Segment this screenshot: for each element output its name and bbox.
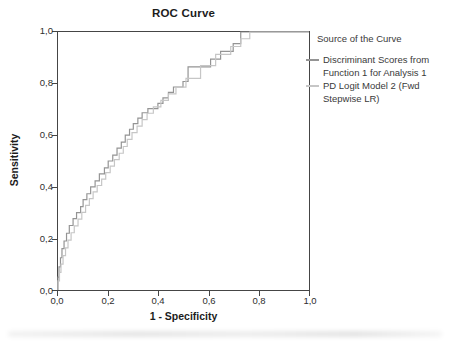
x-tick-label: 0,0	[42, 295, 72, 307]
y-tick-label: 0,6	[27, 129, 53, 141]
roc-curve-1	[58, 32, 309, 290]
roc-curve-2	[58, 32, 309, 290]
x-tick-label: 1,0	[295, 295, 325, 307]
y-tick-label: 0,4	[27, 181, 53, 193]
x-axis-title: 1 - Specificity	[57, 310, 310, 322]
legend-marker	[306, 85, 319, 87]
legend: Source of the Curve Discriminant Scores …	[306, 33, 448, 105]
legend-entry-discriminant: Discriminant Scores from Function 1 for …	[306, 53, 448, 79]
roc-plot-svg	[58, 32, 309, 290]
scan-artifact	[8, 331, 442, 337]
legend-entry-pd-logit: PD Logit Model 2 (Fwd Stepwise LR)	[306, 79, 448, 105]
legend-entry-label: PD Logit Model 2 (Fwd Stepwise LR)	[323, 79, 445, 105]
y-axis-title: Sensitivity	[8, 134, 20, 187]
x-tick-label: 0,4	[143, 295, 173, 307]
chart-title: ROC Curve	[57, 7, 310, 19]
y-tick-label: 0,2	[27, 233, 53, 245]
legend-entry-label: Discriminant Scores from Function 1 for …	[323, 53, 445, 79]
legend-title: Source of the Curve	[317, 33, 448, 44]
x-tick-label: 0,8	[244, 295, 274, 307]
y-tick-label: 1,0	[27, 25, 53, 37]
plot-area	[57, 31, 310, 291]
x-tick-label: 0,2	[93, 295, 123, 307]
x-tick-label: 0,6	[194, 295, 224, 307]
legend-marker	[306, 59, 319, 61]
roc-chart-figure: ROC Curve 1,0 0,8 0,6 0,4 0,2 0,0 0,0 0,…	[0, 0, 450, 343]
y-tick-label: 0,8	[27, 77, 53, 89]
